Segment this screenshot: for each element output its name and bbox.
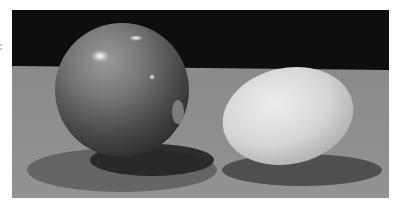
- ball-reflection: [172, 100, 184, 124]
- ball-highlight-main: [91, 50, 109, 62]
- ball-highlight-small: [149, 74, 155, 80]
- scene-illustration: [12, 10, 389, 198]
- ball-highlight-top: [129, 35, 143, 41]
- photo: [12, 10, 389, 198]
- edge-artifact: [0, 44, 3, 54]
- ball: [55, 23, 189, 157]
